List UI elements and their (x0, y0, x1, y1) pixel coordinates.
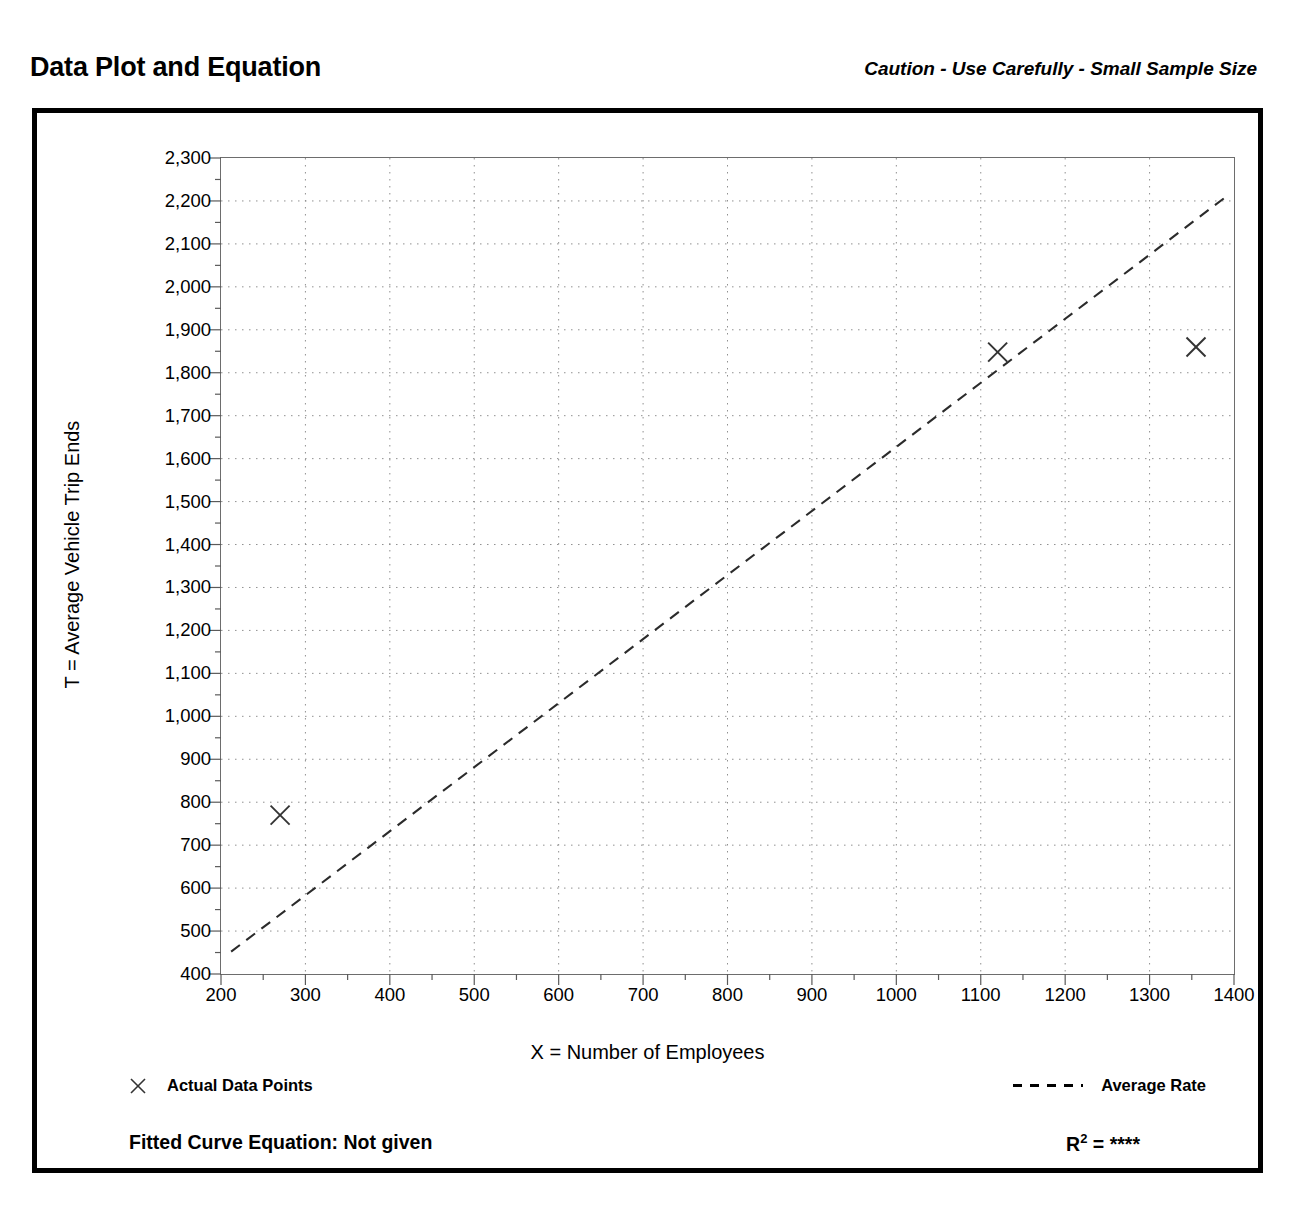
y-axis-tick-label: 1,200 (121, 619, 211, 641)
y-axis-tick-label: 1,600 (121, 448, 211, 470)
r-squared-value: R2 = **** (1066, 1131, 1140, 1156)
x-axis-tick-label: 200 (176, 984, 266, 1006)
y-axis-tick-label: 1,500 (121, 491, 211, 513)
average-rate-line (231, 196, 1227, 952)
x-axis-tick-label: 1000 (851, 984, 941, 1006)
y-axis-tick-label: 1,700 (121, 405, 211, 427)
legend-item-average-rate: Average Rate (1013, 1076, 1206, 1095)
y-axis-tick-label: 800 (121, 791, 211, 813)
y-axis-tick-label: 1,100 (121, 662, 211, 684)
x-axis-tick-label: 300 (260, 984, 350, 1006)
y-axis-tick-label: 600 (121, 877, 211, 899)
y-axis-tick-label: 1,300 (121, 576, 211, 598)
y-axis-tick-label: 1,800 (121, 362, 211, 384)
y-axis-tick-label: 2,300 (121, 147, 211, 169)
caution-note: Caution - Use Carefully - Small Sample S… (864, 58, 1257, 80)
y-axis-tick-label: 900 (121, 748, 211, 770)
plot-card: T = Average Vehicle Trip Ends X = Number… (32, 108, 1263, 1173)
fitted-curve-equation: Fitted Curve Equation: Not given (129, 1131, 432, 1154)
x-axis-tick-label: 1200 (1020, 984, 1110, 1006)
chart-legend: Actual Data Points Average Rate (37, 1076, 1258, 1110)
y-axis-tick-label: 1,900 (121, 319, 211, 341)
y-axis-tick-label: 2,100 (121, 233, 211, 255)
page-header: Data Plot and Equation Caution - Use Car… (0, 52, 1309, 96)
x-axis-tick-label: 700 (598, 984, 688, 1006)
data-point-marker (1187, 337, 1206, 356)
x-axis-tick-label: 800 (683, 984, 773, 1006)
x-axis-title: X = Number of Employees (37, 1041, 1258, 1064)
y-axis-title: T = Average Vehicle Trip Ends (61, 255, 84, 855)
y-axis-tick-label: 1,000 (121, 705, 211, 727)
legend-item-actual-data-points: Actual Data Points (129, 1076, 313, 1095)
r-squared-prefix: R (1066, 1133, 1080, 1155)
y-axis-tick-label: 2,000 (121, 276, 211, 298)
equation-row: Fitted Curve Equation: Not given R2 = **… (37, 1131, 1258, 1167)
x-axis-tick-label: 600 (514, 984, 604, 1006)
data-point-marker (988, 343, 1007, 362)
x-axis-tick-label: 900 (767, 984, 857, 1006)
r-squared-exponent: 2 (1080, 1131, 1087, 1146)
legend-label-average-rate: Average Rate (1101, 1076, 1206, 1095)
y-axis-tick-label: 500 (121, 920, 211, 942)
x-axis-tick-label: 1300 (1105, 984, 1195, 1006)
x-axis-tick-label: 1400 (1189, 984, 1279, 1006)
legend-label-actual-data-points: Actual Data Points (167, 1076, 313, 1095)
y-axis-tick-label: 700 (121, 834, 211, 856)
x-axis-tick-label: 1100 (936, 984, 1026, 1006)
dashed-line-icon (1013, 1084, 1083, 1087)
page-title: Data Plot and Equation (30, 52, 321, 83)
x-axis-tick-label: 500 (429, 984, 519, 1006)
y-axis-tick-label: 2,200 (121, 190, 211, 212)
y-axis-tick-label: 1,400 (121, 534, 211, 556)
y-axis-tick-label: 400 (121, 963, 211, 985)
r-squared-number: = **** (1093, 1133, 1140, 1155)
x-axis-tick-label: 400 (345, 984, 435, 1006)
plot-area: 4005006007008009001,0001,1001,2001,3001,… (220, 157, 1235, 975)
data-point-marker (271, 806, 290, 825)
data-layer (221, 158, 1234, 974)
x-marker-icon (129, 1077, 147, 1095)
